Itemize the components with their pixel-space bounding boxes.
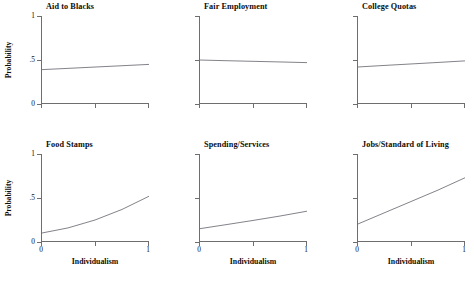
plot-area: 0 1 [357, 154, 465, 242]
x-tick-label-1: 1 [146, 246, 150, 253]
x-tick-label-0: 0 [355, 246, 359, 253]
panel-jobs-standard-of-living: Jobs/Standard of Living Individualism 0 … [316, 138, 474, 273]
x-axis-label: Individualism [388, 257, 434, 266]
series-line [199, 16, 307, 104]
plot-area: 0 1 [199, 154, 307, 242]
y-tick-label-0: 0 [31, 100, 35, 107]
panel-title: Spending/Services [204, 140, 269, 149]
x-tick-mid [95, 104, 96, 108]
x-tick-mid [253, 242, 254, 246]
panel-aid-to-blacks: Aid to Blacks Probability 0 .5 1 [0, 0, 158, 135]
panel-title: Aid to Blacks [46, 2, 94, 11]
x-tick-label-1: 1 [462, 246, 466, 253]
x-tick-0 [357, 104, 358, 108]
panel-row-top: Aid to Blacks Probability 0 .5 1 Fair [0, 0, 474, 135]
x-tick-mid [411, 104, 412, 108]
plot-area: 0 .5 1 [41, 16, 149, 104]
x-tick-label-0: 0 [39, 246, 43, 253]
x-axis-label: Individualism [230, 257, 276, 266]
y-tick-label-5: .5 [29, 194, 35, 201]
series-line [357, 16, 465, 104]
plot-area: 0 .5 1 0 1 [41, 154, 149, 242]
panel-title: Food Stamps [46, 140, 93, 149]
plot-area [357, 16, 465, 104]
y-tick-label-5: .5 [29, 56, 35, 63]
plot-area [199, 16, 307, 104]
x-tick-0 [41, 104, 42, 108]
panel-food-stamps: Food Stamps Probability Individualism 0 … [0, 138, 158, 273]
series-line [357, 154, 465, 242]
x-tick-1 [306, 104, 307, 108]
y-axis-label: Probability [4, 42, 13, 79]
panel-college-quotas: College Quotas [316, 0, 474, 135]
panel-fair-employment: Fair Employment [158, 0, 316, 135]
y-tick-label-1: 1 [31, 150, 35, 157]
x-tick-1 [148, 104, 149, 108]
series-line [41, 154, 149, 242]
panel-spending-services: Spending/Services Individualism 0 1 [158, 138, 316, 273]
y-tick-label-0: 0 [31, 238, 35, 245]
figure-caption-clipped [0, 274, 474, 281]
x-tick-mid [95, 242, 96, 246]
x-tick-0 [199, 104, 200, 108]
figure-small-multiples: Aid to Blacks Probability 0 .5 1 Fair [0, 0, 474, 281]
panel-title: Jobs/Standard of Living [362, 140, 449, 149]
panel-row-bottom: Food Stamps Probability Individualism 0 … [0, 138, 474, 273]
y-axis-label: Probability [4, 180, 13, 217]
x-tick-label-0: 0 [197, 246, 201, 253]
series-line [41, 16, 149, 104]
x-tick-label-1: 1 [304, 246, 308, 253]
x-tick-mid [253, 104, 254, 108]
panel-title: Fair Employment [204, 2, 267, 11]
y-tick-label-1: 1 [31, 12, 35, 19]
x-tick-mid [411, 242, 412, 246]
x-axis-label: Individualism [72, 257, 118, 266]
x-tick-1 [464, 104, 465, 108]
panel-title: College Quotas [362, 2, 416, 11]
series-line [199, 154, 307, 242]
